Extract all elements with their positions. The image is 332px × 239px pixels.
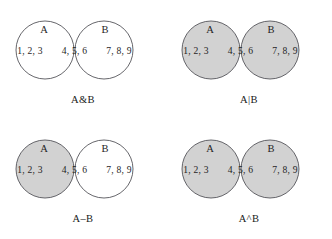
set-b-label: B [101, 143, 108, 154]
set-b-label: B [101, 24, 108, 35]
set-a-label: A [206, 143, 214, 154]
elements-only-b: 7, 8, 9 [106, 45, 131, 56]
elements-both: 4, 5, 6 [62, 45, 87, 56]
elements-both: 4, 5, 6 [62, 164, 87, 175]
venn-panel-intersection: A B 1, 2, 3 4, 5, 6 7, 8, 9 A&B [0, 0, 166, 119]
venn-diagram-grid: A B 1, 2, 3 4, 5, 6 7, 8, 9 A&B A B 1, 2… [0, 0, 332, 239]
venn-panel-union: A B 1, 2, 3 4, 5, 6 7, 8, 9 A|B [166, 0, 332, 119]
elements-both: 4, 5, 6 [228, 164, 253, 175]
elements-only-a: 1, 2, 3 [183, 164, 208, 175]
set-a-label: A [206, 24, 214, 35]
elements-only-a: 1, 2, 3 [183, 45, 208, 56]
elements-only-a: 1, 2, 3 [17, 45, 42, 56]
elements-only-b: 7, 8, 9 [106, 164, 131, 175]
elements-both: 4, 5, 6 [228, 45, 253, 56]
venn-panel-difference: A B 1, 2, 3 4, 5, 6 7, 8, 9 A–B [0, 119, 166, 238]
panel-caption-symmetric-difference: A^B [166, 213, 332, 224]
elements-only-b: 7, 8, 9 [272, 45, 297, 56]
set-b-label: B [267, 24, 274, 35]
venn-panel-symmetric-difference: A B 1, 2, 3 4, 5, 6 7, 8, 9 A^B [166, 119, 332, 238]
elements-only-a: 1, 2, 3 [17, 164, 42, 175]
panel-caption-difference: A–B [0, 213, 166, 224]
set-b-label: B [267, 143, 274, 154]
set-a-label: A [40, 143, 48, 154]
panel-caption-union: A|B [166, 94, 332, 105]
panel-caption-intersection: A&B [0, 94, 166, 105]
elements-only-b: 7, 8, 9 [272, 164, 297, 175]
set-a-label: A [40, 24, 48, 35]
